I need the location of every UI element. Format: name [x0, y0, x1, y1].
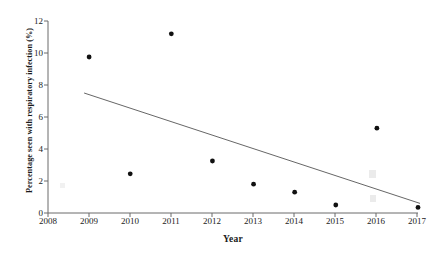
data-point — [210, 159, 215, 164]
data-point-group — [87, 31, 421, 209]
scatter-chart: Percentage seen with respiratory infecti… — [0, 0, 443, 257]
data-point — [169, 31, 174, 36]
data-point — [292, 190, 297, 195]
data-point — [416, 205, 421, 210]
data-point — [87, 55, 92, 60]
plot-area — [0, 0, 443, 257]
data-point — [374, 126, 379, 131]
data-point — [128, 171, 133, 176]
trend-line — [84, 93, 420, 203]
data-point — [333, 203, 338, 208]
data-point — [251, 182, 256, 187]
